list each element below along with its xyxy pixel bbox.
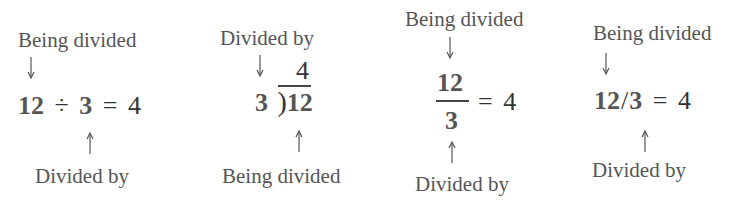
up-arrow-icon: [294, 130, 304, 152]
denominator: 3: [445, 108, 458, 134]
dividend: 12: [18, 91, 44, 120]
divided-by-label: Divided by: [592, 160, 686, 181]
being-divided-label: Being divided: [593, 23, 711, 44]
slash-operator: /: [621, 86, 628, 115]
quotient: 4: [128, 91, 141, 120]
divided-by-label: Divided by: [35, 166, 129, 187]
being-divided-label: Being divided: [222, 166, 340, 187]
down-arrow-icon: [445, 37, 455, 59]
quotient: 4: [296, 58, 309, 84]
equals-sign: =: [103, 91, 118, 120]
divisor: 3: [255, 88, 268, 117]
dividend: 12: [594, 86, 620, 115]
equation: 12 ÷ 3 = 4: [18, 93, 141, 119]
division-bracket: ): [278, 86, 287, 117]
being-divided-label: Being divided: [18, 30, 136, 51]
being-divided-label: Being divided: [405, 9, 523, 30]
up-arrow-icon: [447, 141, 457, 163]
down-arrow-icon: [601, 53, 611, 75]
equals-sign: =: [653, 86, 668, 115]
divide-operator: ÷: [55, 91, 69, 120]
divided-by-label: Divided by: [415, 174, 509, 195]
divisor: 3: [629, 86, 642, 115]
quotient: 4: [503, 87, 516, 116]
equation: 12/3 = 4: [594, 88, 691, 114]
quotient: 4: [678, 86, 691, 115]
down-arrow-icon: [255, 55, 265, 77]
dividend: 12: [287, 88, 313, 117]
fraction-bar: [436, 100, 469, 102]
up-arrow-icon: [85, 132, 95, 154]
equals-sign: =: [478, 87, 493, 116]
up-arrow-icon: [640, 130, 650, 152]
divisor: 3: [79, 91, 92, 120]
numerator: 12: [437, 70, 463, 96]
equals-result: = 4: [478, 89, 516, 115]
long-division-body: 3 )12: [255, 88, 313, 116]
down-arrow-icon: [26, 57, 36, 79]
divided-by-label: Divided by: [220, 28, 314, 49]
